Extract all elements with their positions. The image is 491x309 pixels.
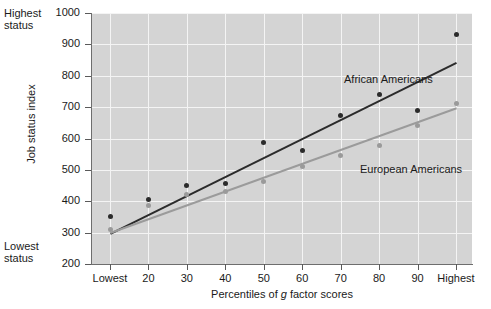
y-axis-tick	[85, 107, 91, 108]
data-point	[184, 183, 189, 188]
data-point	[261, 140, 266, 145]
highest-status-note: Highest status	[4, 7, 41, 31]
lowest-status-note: Lowest status	[4, 240, 39, 264]
data-point	[146, 203, 151, 208]
data-point	[300, 164, 305, 169]
x-axis-tick	[456, 264, 457, 270]
y-axis-tick-label: 900	[44, 38, 80, 49]
data-point	[454, 101, 459, 106]
data-point	[223, 181, 228, 186]
y-axis-tick	[85, 44, 91, 45]
x-axis-tick	[418, 264, 419, 270]
y-axis-tick	[85, 264, 91, 265]
y-axis-tick-label: 200	[44, 258, 80, 269]
gridline-vertical	[456, 13, 457, 264]
y-axis-tick	[85, 139, 91, 140]
lowest-status-line1: Lowest	[4, 240, 39, 252]
highest-status-line2: status	[4, 19, 41, 31]
x-axis-title: Percentiles of g factor scores	[92, 288, 472, 300]
plot-area: African Americans European Americans	[92, 13, 472, 264]
x-axis-tick	[187, 264, 188, 270]
data-point	[223, 189, 228, 194]
x-axis-tick	[148, 264, 149, 270]
data-point	[338, 153, 343, 158]
gridline-vertical	[187, 13, 188, 264]
x-axis-tick	[302, 264, 303, 270]
y-axis-tick	[85, 13, 91, 14]
y-axis-tick	[85, 233, 91, 234]
gridline-vertical	[418, 13, 419, 264]
gridline-vertical	[264, 13, 265, 264]
y-axis-tick-label: 700	[44, 101, 80, 112]
x-axis-title-prefix: Percentiles of	[211, 288, 281, 300]
data-point	[184, 192, 189, 197]
y-axis-line	[91, 13, 92, 265]
y-axis-tick-label: 300	[44, 227, 80, 238]
trendline-african-americans	[110, 62, 457, 235]
x-axis-tick	[264, 264, 265, 270]
series-label-african-americans: African Americans	[344, 73, 433, 85]
data-point	[300, 148, 305, 153]
y-axis-tick-label: 500	[44, 164, 80, 175]
data-point	[454, 32, 459, 37]
data-point	[108, 227, 113, 232]
lowest-status-line2: status	[4, 252, 39, 264]
y-axis-tick	[85, 170, 91, 171]
x-axis-title-suffix: factor scores	[287, 288, 353, 300]
y-axis-tick-label: 1000	[44, 7, 80, 18]
x-axis-tick	[225, 264, 226, 270]
gridline-vertical	[148, 13, 149, 264]
y-axis-tick-label: 600	[44, 133, 80, 144]
x-axis-tick	[341, 264, 342, 270]
gridline-vertical	[379, 13, 380, 264]
data-point	[377, 143, 382, 148]
data-point	[415, 123, 420, 128]
y-axis-tick	[85, 201, 91, 202]
x-axis-tick	[110, 264, 111, 270]
chart-figure: Highest status Lowest status Job status …	[0, 0, 491, 309]
series-label-european-americans: European Americans	[360, 163, 462, 175]
y-axis-title: Job status index	[25, 69, 37, 179]
x-axis-tick	[379, 264, 380, 270]
gridline-vertical	[341, 13, 342, 264]
data-point	[261, 179, 266, 184]
data-point	[377, 92, 382, 97]
data-point	[415, 108, 420, 113]
y-axis-tick	[85, 76, 91, 77]
y-axis-tick-label: 400	[44, 195, 80, 206]
highest-status-line1: Highest	[4, 7, 41, 19]
x-axis-tick-label: Highest	[426, 272, 486, 284]
gridline-vertical	[225, 13, 226, 264]
y-axis-tick-label: 800	[44, 70, 80, 81]
data-point	[108, 214, 113, 219]
